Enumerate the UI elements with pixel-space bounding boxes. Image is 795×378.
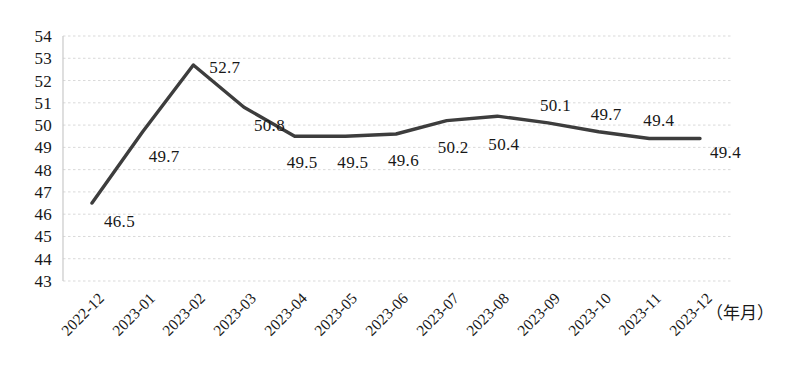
data-point-label: 50.4 bbox=[488, 136, 519, 153]
data-point-label: 49.7 bbox=[149, 148, 180, 165]
y-axis-tick-label: 49 bbox=[18, 139, 52, 156]
y-axis-tick-label: 47 bbox=[18, 184, 52, 201]
y-axis-tick-label: 44 bbox=[18, 251, 52, 268]
data-point-label: 49.6 bbox=[388, 152, 419, 169]
y-axis-tick-label: 52 bbox=[18, 73, 52, 90]
y-axis-tick-label: 53 bbox=[18, 50, 52, 67]
x-axis-unit-label: （年月） bbox=[706, 305, 774, 322]
y-axis-tick-label: 46 bbox=[18, 206, 52, 223]
data-point-label: 49.4 bbox=[643, 112, 674, 129]
y-axis-tick-label: 45 bbox=[18, 228, 52, 245]
data-point-label: 49.7 bbox=[591, 106, 622, 123]
data-point-label: 49.5 bbox=[287, 154, 318, 171]
y-axis-tick-label: 48 bbox=[18, 162, 52, 179]
data-point-label: 50.2 bbox=[438, 139, 469, 156]
data-point-label: 52.7 bbox=[209, 59, 240, 76]
data-series-line bbox=[92, 65, 700, 203]
data-point-label: 50.1 bbox=[540, 97, 571, 114]
y-axis-tick-label: 50 bbox=[18, 117, 52, 134]
data-point-label: 49.5 bbox=[337, 154, 368, 171]
data-point-label: 50.8 bbox=[254, 117, 285, 134]
data-point-label: 49.4 bbox=[710, 144, 741, 161]
data-point-label: 46.5 bbox=[104, 213, 135, 230]
line-chart: 545352515049484746454443 2022-122023-012… bbox=[0, 0, 795, 378]
y-axis-tick-label: 51 bbox=[18, 95, 52, 112]
y-axis-tick-label: 54 bbox=[18, 28, 52, 45]
y-axis-tick-label: 43 bbox=[18, 273, 52, 290]
